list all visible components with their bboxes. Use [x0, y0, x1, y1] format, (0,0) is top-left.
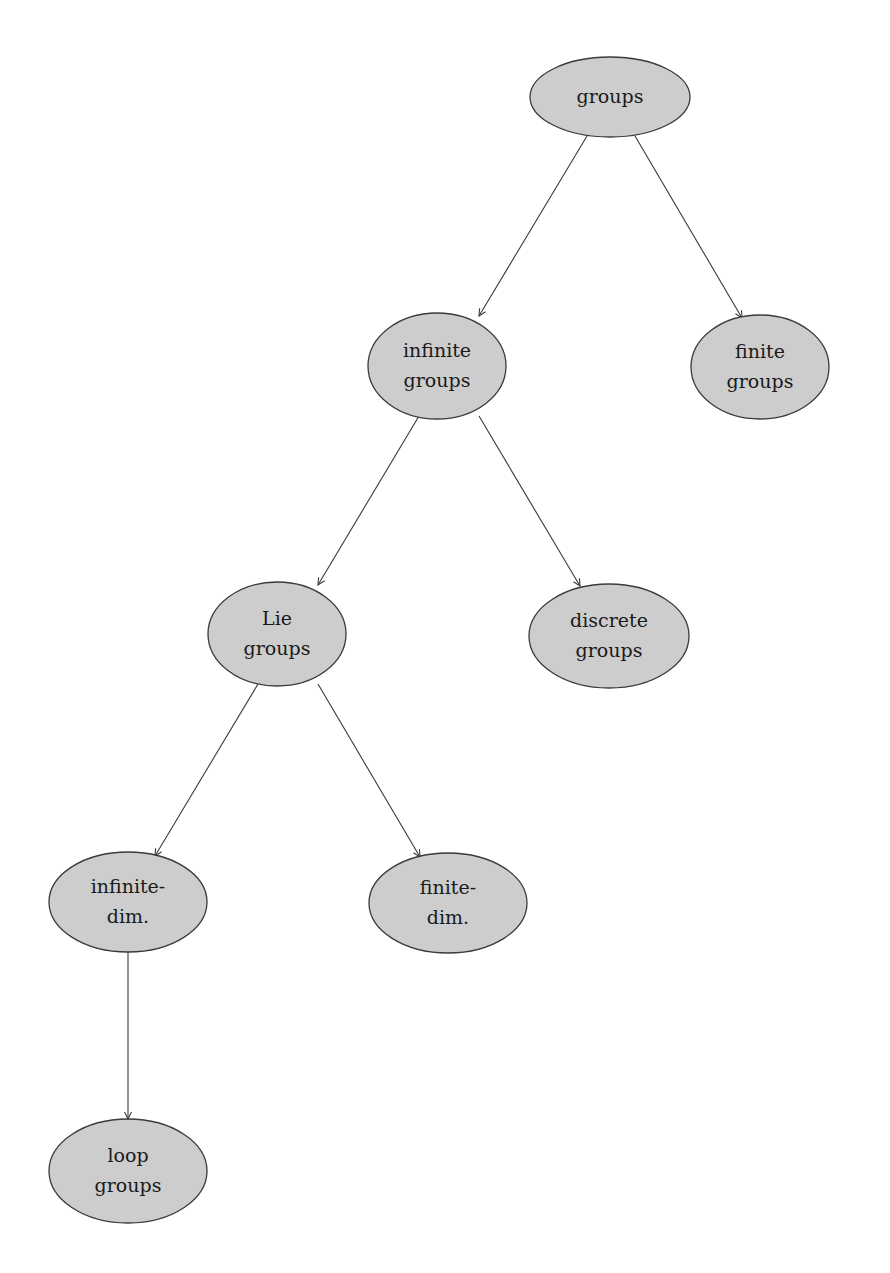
- edge-infinite-groups-to-discrete-groups: [479, 416, 580, 586]
- node-label: finite-: [420, 876, 476, 898]
- node-label: infinite-: [91, 875, 166, 897]
- node-ellipse: [49, 1119, 207, 1223]
- node-finite-groups: finitegroups: [691, 315, 829, 419]
- node-label: loop: [107, 1144, 148, 1166]
- node-ellipse: [368, 313, 506, 419]
- node-label: finite: [735, 340, 785, 362]
- node-label: groups: [244, 637, 311, 659]
- node-ellipse: [691, 315, 829, 419]
- node-lie-groups: Liegroups: [208, 582, 346, 686]
- node-label: dim.: [427, 906, 469, 928]
- node-label: infinite: [403, 339, 471, 361]
- node-groups: groups: [530, 57, 690, 137]
- edge-groups-to-finite-groups: [635, 136, 742, 318]
- node-label: dim.: [107, 905, 149, 927]
- edge-infinite-groups-to-lie-groups: [318, 416, 419, 585]
- node-label: groups: [727, 370, 794, 392]
- node-ellipse: [49, 852, 207, 952]
- node-finite-dim: finite-dim.: [369, 853, 527, 953]
- node-ellipse: [529, 584, 689, 688]
- edge-lie-groups-to-finite-dim: [318, 684, 420, 857]
- node-discrete-groups: discretegroups: [529, 584, 689, 688]
- node-loop-groups: loopgroups: [49, 1119, 207, 1223]
- nodes-layer: groupsinfinitegroupsfinitegroupsLiegroup…: [49, 57, 829, 1223]
- node-label: groups: [577, 85, 644, 107]
- node-ellipse: [208, 582, 346, 686]
- node-label: groups: [404, 369, 471, 391]
- node-infinite-dim: infinite-dim.: [49, 852, 207, 952]
- node-label: groups: [576, 639, 643, 661]
- node-label: Lie: [262, 607, 292, 629]
- node-ellipse: [369, 853, 527, 953]
- edge-groups-to-infinite-groups: [479, 136, 587, 316]
- node-label: discrete: [570, 609, 648, 631]
- node-infinite-groups: infinitegroups: [368, 313, 506, 419]
- edge-lie-groups-to-infinite-dim: [155, 684, 258, 856]
- node-label: groups: [95, 1174, 162, 1196]
- group-taxonomy-diagram: groupsinfinitegroupsfinitegroupsLiegroup…: [0, 0, 890, 1273]
